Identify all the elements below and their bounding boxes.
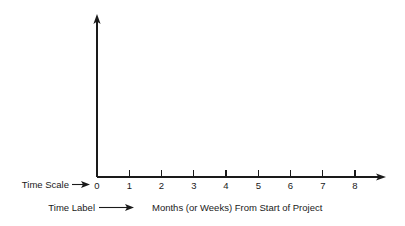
tick-label-0: 0 bbox=[94, 180, 99, 191]
time-axis-ticks bbox=[97, 170, 355, 177]
tick-label-4: 4 bbox=[223, 180, 228, 191]
tick-label-8: 8 bbox=[352, 180, 357, 191]
time-scale-annotation: Time Scale bbox=[22, 179, 90, 190]
time-axis-group bbox=[97, 173, 386, 180]
time-axis-tick-labels: 0 1 2 3 4 5 6 7 8 bbox=[94, 180, 357, 191]
diagram-canvas: 0 1 2 3 4 5 6 7 8 Time Scale " annotatio… bbox=[0, 0, 405, 226]
value-axis-group bbox=[93, 14, 100, 177]
time-label-label: Time Label bbox=[48, 202, 95, 213]
axis-title: Months (or Weeks) From Start of Project bbox=[152, 202, 323, 213]
axis-title-group: Months (or Weeks) From Start of Project bbox=[152, 202, 323, 213]
tick-label-3: 3 bbox=[191, 180, 196, 191]
time-scale-diagram: 0 1 2 3 4 5 6 7 8 Time Scale " annotatio… bbox=[0, 0, 405, 226]
time-label-annotation: Time Label bbox=[48, 202, 134, 213]
tick-label-7: 7 bbox=[320, 180, 325, 191]
tick-label-6: 6 bbox=[288, 180, 293, 191]
tick-label-5: 5 bbox=[256, 180, 261, 191]
tick-label-1: 1 bbox=[127, 180, 132, 191]
tick-label-2: 2 bbox=[159, 180, 164, 191]
time-scale-label: Time Scale bbox=[22, 179, 69, 190]
